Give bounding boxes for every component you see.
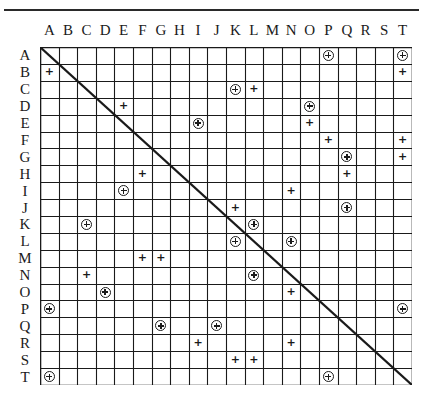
row-label-p: P: [18, 302, 32, 317]
row-label-i: I: [18, 184, 32, 199]
circled-plus-icon: [193, 118, 204, 129]
circled-plus-icon: [100, 287, 111, 298]
column-label-j: J: [208, 23, 226, 38]
row-label-b: B: [18, 65, 32, 80]
row-label-l: L: [18, 234, 32, 249]
column-label-q: Q: [338, 23, 356, 38]
column-label-g: G: [152, 23, 170, 38]
column-label-l: L: [245, 23, 263, 38]
row-label-s: S: [18, 353, 32, 368]
row-label-e: E: [18, 116, 32, 131]
top-rule: [4, 9, 419, 11]
grid-lines: [40, 47, 412, 385]
circled-plus-icon: [286, 236, 297, 247]
row-label-r: R: [18, 336, 32, 351]
row-label-d: D: [18, 99, 32, 114]
column-label-c: C: [78, 23, 96, 38]
circled-plus-icon: [44, 371, 55, 382]
row-label-f: F: [18, 133, 32, 148]
circled-plus-icon: [81, 219, 92, 230]
plus-icon: +: [82, 270, 92, 280]
row-label-h: H: [18, 167, 32, 182]
plus-icon: +: [286, 337, 296, 347]
row-label-g: G: [18, 150, 32, 165]
column-label-k: K: [226, 23, 244, 38]
plus-icon: +: [230, 354, 240, 364]
plus-icon: +: [342, 168, 352, 178]
column-label-n: N: [282, 23, 300, 38]
plus-icon: +: [398, 151, 408, 161]
row-label-n: N: [18, 268, 32, 283]
column-label-s: S: [375, 23, 393, 38]
relation-matrix-grid: ++++++++++++++++++++: [40, 47, 412, 385]
plus-icon: +: [230, 202, 240, 212]
plus-icon: +: [119, 101, 129, 111]
column-label-r: R: [357, 23, 375, 38]
column-label-t: T: [394, 23, 412, 38]
row-label-a: A: [18, 48, 32, 63]
column-label-p: P: [319, 23, 337, 38]
plus-icon: +: [286, 185, 296, 195]
plus-icon: +: [44, 67, 54, 77]
column-label-b: B: [59, 23, 77, 38]
plus-icon: +: [137, 253, 147, 263]
row-label-k: K: [18, 217, 32, 232]
plus-icon: +: [156, 253, 166, 263]
plus-icon: +: [249, 84, 259, 94]
column-label-h: H: [171, 23, 189, 38]
plus-icon: +: [286, 287, 296, 297]
plus-icon: +: [305, 118, 315, 128]
plus-icon: +: [323, 134, 333, 144]
circled-plus-icon: [230, 84, 241, 95]
row-label-q: Q: [18, 319, 32, 334]
column-label-f: F: [133, 23, 151, 38]
column-label-e: E: [115, 23, 133, 38]
column-label-d: D: [96, 23, 114, 38]
plus-icon: +: [193, 337, 203, 347]
circled-plus-icon: [248, 270, 259, 281]
circled-plus-icon: [304, 101, 315, 112]
row-label-m: M: [18, 251, 32, 266]
row-label-o: O: [18, 285, 32, 300]
plus-icon: +: [398, 67, 408, 77]
row-label-t: T: [18, 370, 32, 385]
row-label-c: C: [18, 82, 32, 97]
circled-plus-icon: [323, 50, 334, 61]
circled-plus-icon: [323, 371, 334, 382]
column-label-o: O: [301, 23, 319, 38]
plus-icon: +: [249, 354, 259, 364]
circled-plus-icon: [230, 236, 241, 247]
plus-icon: +: [398, 134, 408, 144]
column-label-i: I: [189, 23, 207, 38]
column-label-m: M: [264, 23, 282, 38]
row-label-j: J: [18, 201, 32, 216]
column-label-a: A: [40, 23, 58, 38]
plus-icon: +: [137, 168, 147, 178]
